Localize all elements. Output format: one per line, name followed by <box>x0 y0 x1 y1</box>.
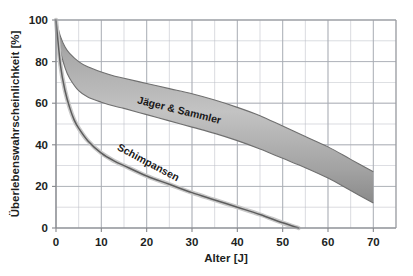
y-tick-label: 0 <box>42 222 48 234</box>
y-tick-label: 60 <box>35 97 48 109</box>
chart-container: 010203040506070 020406080100 Alter [J] Ü… <box>0 0 413 276</box>
y-tick-label: 100 <box>29 14 48 26</box>
y-tick-label: 80 <box>35 56 48 68</box>
y-axis-title: Überlebenswahrscheinlichkeit [%] <box>9 31 21 218</box>
x-tick-label: 20 <box>140 236 153 248</box>
y-tick-label: 20 <box>35 180 48 192</box>
x-tick-label: 50 <box>276 236 289 248</box>
x-tick-label: 70 <box>367 236 380 248</box>
x-axis-title: Alter [J] <box>204 252 248 264</box>
x-tick-label: 10 <box>95 236 108 248</box>
y-tick-label: 40 <box>35 139 48 151</box>
x-tick-label: 60 <box>322 236 335 248</box>
x-tick-label: 30 <box>186 236 199 248</box>
x-tick-label: 0 <box>53 236 59 248</box>
survival-probability-chart: 010203040506070 020406080100 Alter [J] Ü… <box>0 0 413 276</box>
x-tick-label: 40 <box>231 236 244 248</box>
